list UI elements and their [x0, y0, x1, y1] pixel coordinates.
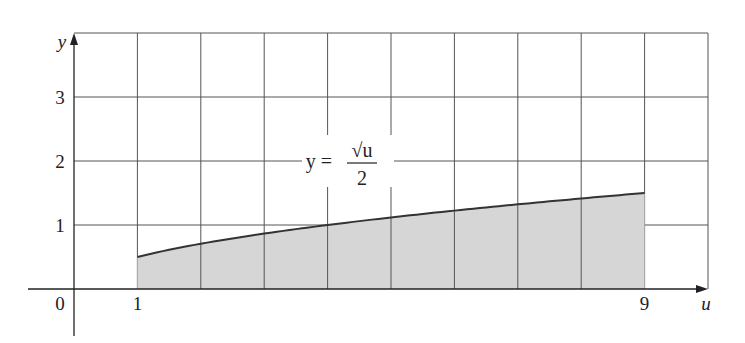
y-tick-label: 2	[55, 151, 65, 172]
y-tick-label: 1	[55, 215, 65, 236]
x-axis-arrow-icon	[696, 285, 708, 293]
label-denominator: 2	[357, 167, 367, 189]
x-tick-label: 0	[55, 293, 65, 314]
y-axis-label: y	[56, 31, 67, 52]
y-axis-arrow-icon	[70, 33, 78, 45]
x-axis-label: u	[701, 293, 711, 314]
label-numerator: √u	[352, 139, 373, 161]
chart-canvas: yu019123 y =√u2	[0, 0, 745, 343]
function-label: y =√u2	[302, 135, 394, 189]
x-tick-label: 9	[640, 293, 650, 314]
y-tick-label: 3	[55, 87, 65, 108]
label-lhs: y =	[306, 150, 332, 173]
x-tick-label: 1	[133, 293, 143, 314]
